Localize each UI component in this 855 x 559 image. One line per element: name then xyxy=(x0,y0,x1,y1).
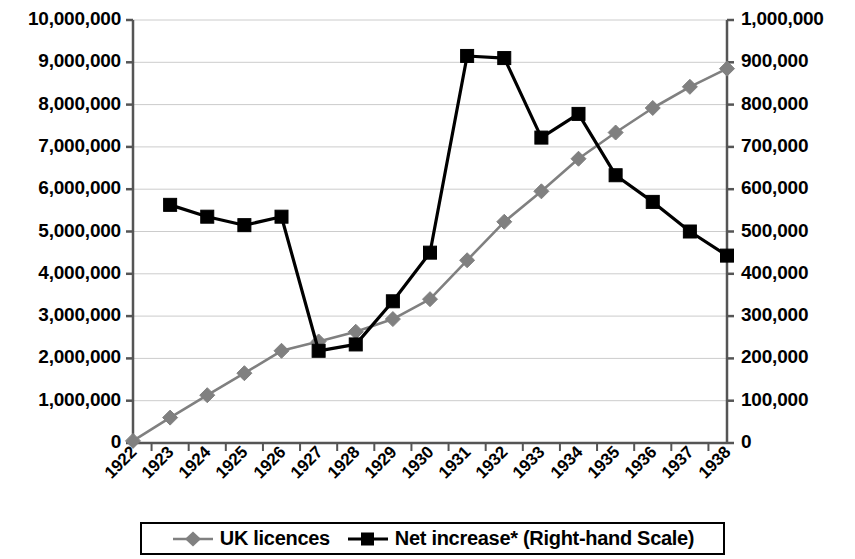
axis-ticks xyxy=(126,20,734,451)
legend-label: UK licences xyxy=(220,527,330,550)
square-marker-icon xyxy=(721,249,734,262)
square-marker-icon xyxy=(461,49,474,62)
square-marker-icon xyxy=(275,210,288,223)
square-marker-icon xyxy=(498,52,511,65)
legend-entry-1: Net increase* (Right-hand Scale) xyxy=(346,527,694,550)
diamond-marker-icon xyxy=(237,366,252,381)
square-marker-icon xyxy=(346,529,390,549)
diamond-marker-icon xyxy=(274,343,289,358)
diamond-marker-icon xyxy=(682,79,697,94)
square-marker-icon xyxy=(349,338,362,351)
gridlines xyxy=(133,20,727,443)
square-marker-icon xyxy=(386,295,399,308)
diamond-marker-icon xyxy=(645,100,660,115)
square-marker-icon xyxy=(683,225,696,238)
plot-area xyxy=(0,0,855,559)
chart-legend: UK licencesNet increase* (Right-hand Sca… xyxy=(140,522,725,555)
diamond-marker-icon xyxy=(126,433,141,448)
square-marker-icon xyxy=(535,131,548,144)
diamond-marker-icon xyxy=(385,312,400,327)
diamond-marker-icon xyxy=(171,529,215,549)
legend-label: Net increase* (Right-hand Scale) xyxy=(395,527,694,550)
series-line-1 xyxy=(170,56,727,351)
square-marker-icon xyxy=(238,219,251,232)
legend-entry-0: UK licences xyxy=(171,527,330,550)
chart-container: 01,000,0002,000,0003,000,0004,000,0005,0… xyxy=(0,0,855,559)
square-marker-icon xyxy=(164,198,177,211)
diamond-marker-icon xyxy=(163,410,178,425)
square-marker-icon xyxy=(312,344,325,357)
data-series xyxy=(126,49,735,448)
square-marker-icon xyxy=(201,210,214,223)
square-marker-icon xyxy=(646,195,659,208)
square-marker-icon xyxy=(572,107,585,120)
square-marker-icon xyxy=(609,169,622,182)
square-marker-icon xyxy=(424,246,437,259)
